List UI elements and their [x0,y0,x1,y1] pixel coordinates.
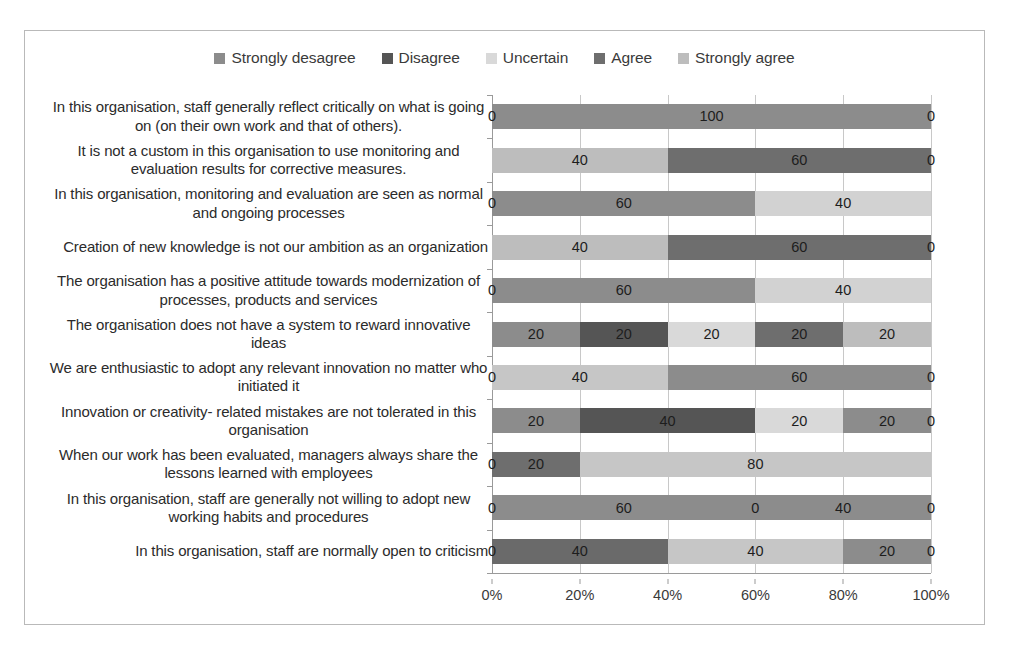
bar-segment[interactable]: 60 [668,148,931,173]
bar-segment[interactable]: 20 [492,452,580,477]
bar-segment-value: 40 [572,240,588,255]
bar-segment-value: 20 [879,414,895,429]
x-axis-tick-label: 60% [741,587,770,603]
category-label-text: In this organisation, monitoring and eva… [49,185,488,222]
bar-segment[interactable]: 60 [492,278,755,303]
category-label-text: The organisation does not have a system … [49,316,488,353]
x-axis-tick-label: 100% [912,587,949,603]
bar-segment-value: 0 [927,153,935,168]
bar-segment[interactable]: 40 [580,408,756,433]
bar-segment[interactable]: 40 [755,495,931,520]
bar-row[interactable]: 204020200 [492,408,931,433]
bar-segment[interactable]: 20 [668,322,756,347]
category-label: When our work has been evaluated, manage… [49,443,492,486]
x-axis-tick-mark [755,579,756,584]
bar-segment-value: 40 [572,544,588,559]
bar-segment[interactable]: 40 [492,365,668,390]
bar-segment[interactable]: 80 [580,452,931,477]
bar-segment[interactable]: 20 [492,408,580,433]
bar-row[interactable]: 0600400 [492,495,931,520]
chart-frame: Strongly desagreeDisagreeUncertainAgreeS… [24,30,985,625]
bar-row[interactable]: 01000 [492,104,931,129]
bar-segment-value: 40 [572,370,588,385]
bar-segment-value: 0 [927,109,935,124]
legend-label: Uncertain [503,49,568,67]
category-label: The organisation does not have a system … [49,312,492,355]
bar-segment-value: 60 [616,196,632,211]
bar-segment-value: 0 [488,457,496,472]
bar-segment-value: 20 [528,414,544,429]
bar-segment[interactable]: 40 [492,539,668,564]
bar-segment-value: 20 [879,544,895,559]
bar-segment[interactable]: 60 [492,495,755,520]
category-label-text: Innovation or creativity- related mistak… [49,403,488,440]
bar-row[interactable]: 040600 [492,365,931,390]
bar-segment-value: 40 [835,501,851,516]
category-label-text: In this organisation, staff are normally… [135,542,488,560]
bar-segment[interactable]: 40 [492,235,668,260]
category-label-text: In this organisation, staff are generall… [49,490,488,527]
chart-legend: Strongly desagreeDisagreeUncertainAgreeS… [25,49,984,67]
bar-row[interactable]: 06040 [492,191,931,216]
category-axis-labels: In this organisation, staff generally re… [49,95,492,573]
category-label-text: The organisation has a positive attitude… [49,272,488,309]
bar-row[interactable]: 06040 [492,278,931,303]
legend-swatch-icon [486,53,497,64]
legend-swatch-icon [594,53,605,64]
bar-segment[interactable]: 20 [755,322,843,347]
category-label-text: We are enthusiastic to adopt any relevan… [49,359,488,396]
bar-segment-value: 0 [751,501,759,516]
x-axis-tick-label: 80% [829,587,858,603]
bar-segment[interactable]: 20 [755,408,843,433]
bar-segment[interactable]: 100 [492,104,931,129]
x-axis-tick-mark [667,579,668,584]
x-axis-line [492,573,931,574]
legend-item-3[interactable]: Agree [594,49,652,67]
legend-item-1[interactable]: Disagree [382,49,460,67]
category-label-text: Creation of new knowledge is not our amb… [63,238,488,256]
legend-label: Strongly agree [695,49,794,67]
bar-segment-value: 20 [616,327,632,342]
bar-segment[interactable]: 20 [580,322,668,347]
bar-segment-value: 100 [699,109,723,124]
legend-item-0[interactable]: Strongly desagree [214,49,355,67]
bar-segment[interactable]: 20 [843,408,931,433]
x-axis-tick-mark [843,579,844,584]
x-axis-tick-label: 20% [565,587,594,603]
bar-segment-value: 60 [616,283,632,298]
category-label: Innovation or creativity- related mistak… [49,399,492,442]
bar-segment[interactable]: 60 [492,191,755,216]
bar-segment-value: 20 [703,327,719,342]
bar-segment-value: 60 [791,240,807,255]
bar-segment[interactable]: 40 [755,191,931,216]
bar-segment-value: 40 [660,414,676,429]
bar-segment-value: 0 [927,240,935,255]
bar-segment-value: 20 [791,327,807,342]
bar-segment-value: 60 [791,370,807,385]
bar-segment[interactable]: 40 [668,539,844,564]
legend-item-2[interactable]: Uncertain [486,49,568,67]
bar-segment[interactable]: 60 [668,235,931,260]
x-axis-tick-mark [931,579,932,584]
category-label: The organisation has a positive attitude… [49,269,492,312]
bar-segment-value: 0 [488,196,496,211]
bar-row[interactable]: 40600 [492,235,931,260]
category-label-text: When our work has been evaluated, manage… [49,446,488,483]
category-label: In this organisation, staff generally re… [49,95,492,138]
bar-row[interactable]: 02080 [492,452,931,477]
legend-item-4[interactable]: Strongly agree [678,49,794,67]
x-axis-tick-mark [492,579,493,584]
bar-row[interactable]: 40600 [492,148,931,173]
legend-swatch-icon [382,53,393,64]
bar-segment-value: 0 [488,370,496,385]
bar-segment[interactable]: 20 [492,322,580,347]
bar-segment[interactable]: 40 [492,148,668,173]
bar-row[interactable]: 04040200 [492,539,931,564]
bar-segment[interactable]: 20 [843,539,931,564]
bar-segment-value: 0 [927,414,935,429]
bar-segment[interactable]: 40 [755,278,931,303]
bar-row[interactable]: 2020202020 [492,322,931,347]
bar-segment[interactable]: 20 [843,322,931,347]
bar-segment[interactable]: 60 [668,365,931,390]
bar-segment-value: 0 [488,544,496,559]
